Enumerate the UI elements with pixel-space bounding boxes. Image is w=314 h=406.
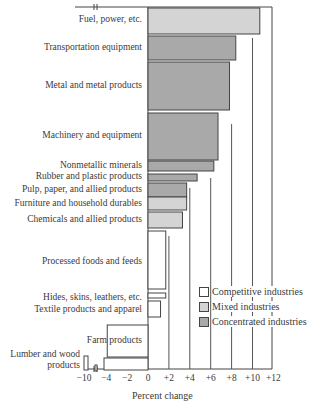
category-label: Lumber and woodproducts [10,349,80,371]
x-axis-label: Percent change [132,390,193,401]
x-tick-label: +10 [245,373,260,383]
bar [148,113,218,160]
category-label: Machinery and equipment [42,130,142,140]
legend-label: Mixed industries [212,301,280,312]
x-tick-label: +2 [164,373,174,383]
x-tick-label: +8 [227,373,237,383]
bar [148,301,161,317]
legend-label: Concentrated industries [212,316,307,327]
category-label: Processed foods and feeds [42,256,142,266]
bar [148,197,187,210]
category-label: Farm products [87,335,142,345]
legend-swatch [199,287,209,297]
category-label: Rubber and plastic products [36,171,142,181]
x-tick-label: +6 [206,373,216,383]
x-tick-label: +4 [185,373,195,383]
x-tick-label: −2 [122,373,132,383]
category-label: Hides, skins, leathers, etc. [43,292,142,302]
bar [148,174,197,181]
x-tick-label: −10 [77,373,92,383]
category-label: Nonmetallic minerals [60,160,142,170]
bar [104,358,148,370]
legend-item: Concentrated industries [199,316,307,327]
category-label: Pulp, paper, and allied products [22,184,142,194]
bar [148,293,166,298]
category-label: Metal and metal products [45,80,142,90]
category-label: Chemicals and allied products [27,214,142,224]
category-label: Textile products and apparel [34,304,142,314]
bar [148,231,166,289]
legend-item: Mixed industries [199,301,280,312]
bar [148,62,230,110]
x-tick-label: +12 [266,373,281,383]
legend-label: Competitive industries [212,286,303,297]
percent-change-bar-chart: Fuel, power, etc.Transportation equipmen… [0,0,314,406]
category-label: Furniture and household durables [15,198,142,208]
x-tick-label: 0 [146,373,151,383]
legend-swatch [199,302,209,312]
bar [148,212,182,228]
bar [148,161,214,171]
x-tick-label: −4 [101,373,111,383]
category-label: Fuel, power, etc. [79,14,142,24]
legend-swatch [199,317,209,327]
category-label: Transportation equipment [44,42,142,52]
bar [148,8,260,34]
bar [148,36,236,60]
legend-item: Competitive industries [199,286,303,297]
bar [148,183,187,197]
